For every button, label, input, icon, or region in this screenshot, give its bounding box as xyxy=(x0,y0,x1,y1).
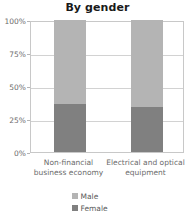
y-tick-label: 75% xyxy=(0,50,26,59)
legend-label: Female xyxy=(81,204,108,213)
legend-item[interactable]: Male xyxy=(0,190,195,202)
legend-item-inner: Male xyxy=(72,192,124,201)
legend-label: Male xyxy=(81,192,99,201)
bar-segment-male[interactable] xyxy=(131,20,163,107)
bar-segment-male[interactable] xyxy=(54,20,86,104)
chart-title: By gender xyxy=(0,1,195,14)
x-tick-label-line: equipment xyxy=(94,168,195,178)
y-tick-label: 100% xyxy=(0,17,26,26)
legend-swatch-icon xyxy=(72,205,78,211)
bar-stack[interactable] xyxy=(54,20,86,152)
legend-item-inner: Female xyxy=(72,204,124,213)
y-tick-mark xyxy=(27,153,30,154)
y-tick-label: 25% xyxy=(0,116,26,125)
plot-area xyxy=(30,21,184,153)
chart-container: By gender 0%25%50%75%100% MaleFemale Non… xyxy=(0,0,195,218)
legend-item[interactable]: Female xyxy=(0,202,195,214)
x-tick-label: Electrical and opticalequipment xyxy=(94,158,195,178)
y-tick-label: 50% xyxy=(0,83,26,92)
bar-segment-female[interactable] xyxy=(54,104,86,152)
chart-legend: MaleFemale xyxy=(0,190,195,214)
bar-stack[interactable] xyxy=(131,20,163,152)
bar-segment-female[interactable] xyxy=(131,107,163,152)
y-axis: 0%25%50%75%100% xyxy=(0,21,26,153)
x-tick-label-line: Electrical and optical xyxy=(94,158,195,168)
legend-swatch-icon xyxy=(72,193,78,199)
y-tick-label: 0% xyxy=(0,149,26,158)
